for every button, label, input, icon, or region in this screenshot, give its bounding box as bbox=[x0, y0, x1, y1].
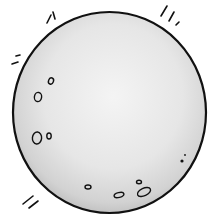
motion-mark-icon bbox=[176, 22, 179, 25]
moon-drawing bbox=[0, 0, 212, 218]
moon-illustration bbox=[0, 0, 212, 218]
moon-body bbox=[13, 12, 206, 213]
motion-mark-icon bbox=[29, 201, 38, 208]
motion-mark-icon bbox=[53, 12, 55, 19]
motion-mark-icon bbox=[12, 62, 18, 64]
crater-dot-icon bbox=[180, 159, 183, 162]
crater-dot-icon bbox=[184, 154, 186, 156]
motion-mark-icon bbox=[23, 196, 33, 204]
motion-mark-icon bbox=[169, 12, 174, 21]
motion-mark-icon bbox=[47, 15, 51, 23]
motion-mark-icon bbox=[161, 6, 167, 16]
motion-mark-icon bbox=[16, 55, 20, 56]
